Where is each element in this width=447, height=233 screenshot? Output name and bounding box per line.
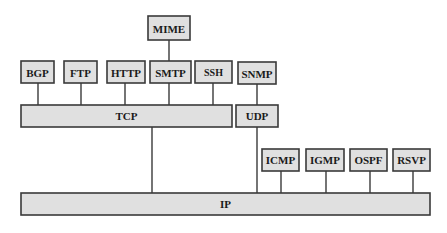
node-mime: MIME <box>148 16 190 40</box>
node-rsvp-label: RSVP <box>397 154 426 166</box>
node-snmp: SNMP <box>238 62 276 84</box>
node-tcp-label: TCP <box>116 110 138 122</box>
node-tcp: TCP <box>21 105 232 127</box>
node-icmp: ICMP <box>262 149 299 171</box>
node-http: HTTP <box>107 61 145 83</box>
node-udp-label: UDP <box>246 110 269 122</box>
node-ospf-label: OSPF <box>354 154 382 166</box>
node-ip: IP <box>21 193 430 215</box>
node-smtp: SMTP <box>150 61 191 83</box>
node-icmp-label: ICMP <box>266 154 296 166</box>
node-igmp-label: IGMP <box>310 154 340 166</box>
node-udp: UDP <box>236 105 278 127</box>
node-ftp: FTP <box>64 61 97 83</box>
node-snmp-label: SNMP <box>241 68 272 80</box>
node-ospf: OSPF <box>350 149 387 171</box>
node-smtp-label: SMTP <box>155 67 186 79</box>
node-ftp-label: FTP <box>70 67 91 79</box>
node-igmp: IGMP <box>306 149 344 171</box>
node-bgp: BGP <box>21 61 54 83</box>
node-ssh: SSH <box>195 61 232 83</box>
node-ssh-label: SSH <box>204 67 223 78</box>
node-mime-label: MIME <box>153 23 185 35</box>
node-ip-label: IP <box>220 198 231 210</box>
node-bgp-label: BGP <box>26 67 49 79</box>
node-http-label: HTTP <box>111 67 141 79</box>
node-rsvp: RSVP <box>393 149 430 171</box>
protocol-diagram: MIME BGP FTP HTTP SMTP SSH SNMP TCP UDP … <box>0 0 447 233</box>
